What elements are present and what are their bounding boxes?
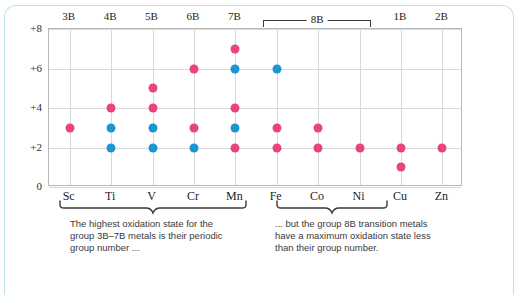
data-point-mn-7 [231,44,240,53]
data-point-ti-3 [107,123,116,132]
data-point-v-3 [148,123,157,132]
data-point-ni-2 [355,143,364,152]
y-tick-0: 0 [0,180,42,192]
left-caption-line-1: The highest oxidation state for the [70,218,260,230]
y-tick-plus4: +4 [0,101,42,113]
right-caption-line-1: ... but the group 8B transition metals [275,218,475,230]
gridline-vertical-ni [360,29,361,185]
data-point-ti-4 [107,104,116,113]
gridline-vertical-zn [442,29,443,185]
right-caption: ... but the group 8B transition metals h… [275,218,475,255]
right-group-brace [275,199,389,215]
data-point-fe-6 [272,64,281,73]
gridline-horizontal [49,187,461,188]
data-point-cr-2 [189,143,198,152]
gridline-vertical-cr [194,29,195,185]
left-caption-line-2: group 3B–7B metals is their periodic [70,230,260,242]
plot-area [48,28,462,186]
left-caption: The highest oxidation state for the grou… [70,218,260,255]
group-label-7b: 7B [228,10,241,22]
right-caption-line-2: have a maximum oxidation state less [275,230,475,242]
y-tick-plus8: +8 [0,22,42,34]
gridline-vertical-fe [277,29,278,185]
y-tick-plus6: +6 [0,62,42,74]
data-point-v-2 [148,143,157,152]
right-caption-line-3: than their group number. [275,242,475,254]
data-point-mn-3 [231,123,240,132]
group-label-3b: 3B [62,10,75,22]
data-point-zn-2 [438,143,447,152]
gridline-vertical-cu [401,29,402,185]
data-point-ti-2 [107,143,116,152]
data-point-cu-1 [396,163,405,172]
gridline-vertical-co [318,29,319,185]
data-point-v-4 [148,104,157,113]
left-group-brace [58,199,248,215]
gridline-vertical-sc [70,29,71,185]
group-label-4b: 4B [104,10,117,22]
data-point-cu-2 [396,143,405,152]
data-point-co-2 [314,143,323,152]
element-label-cu: Cu [393,189,407,204]
element-label-zn: Zn [435,189,448,204]
data-point-sc-3 [65,123,74,132]
data-point-fe-2 [272,143,281,152]
group-8b-label: 8B [307,13,328,25]
data-point-mn-4 [231,104,240,113]
y-tick-plus2: +2 [0,141,42,153]
data-point-co-3 [314,123,323,132]
group-label-6b: 6B [186,10,199,22]
group-label-5b: 5B [145,10,158,22]
group-label-1b: 1B [393,10,406,22]
data-point-cr-6 [189,64,198,73]
data-point-mn-2 [231,143,240,152]
data-point-v-5 [148,84,157,93]
data-point-mn-6 [231,64,240,73]
group-label-2b: 2B [435,10,448,22]
data-point-cr-3 [189,123,198,132]
left-caption-line-3: group number ... [70,242,260,254]
data-point-fe-3 [272,123,281,132]
